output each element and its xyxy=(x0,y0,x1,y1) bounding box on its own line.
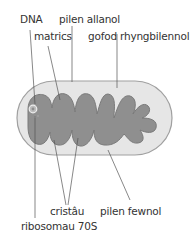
inner-membrane-leader-line xyxy=(108,150,130,200)
mitochondrion-diagram: DNA pilen allanol matrics gofod rhyngbil… xyxy=(0,0,191,240)
label-dna: DNA xyxy=(20,13,43,25)
label-outer-membrane: pilen allanol xyxy=(59,13,120,25)
ribosome-dot xyxy=(37,115,39,117)
label-ribosomes: ribosomau 70S xyxy=(21,220,97,232)
label-intermembrane-space: gofod rhyngbilennol xyxy=(88,30,189,42)
label-cristae: cristâu xyxy=(50,205,84,217)
label-matrix: matrics xyxy=(34,30,72,42)
label-inner-membrane: pilen fewnol xyxy=(100,205,161,217)
